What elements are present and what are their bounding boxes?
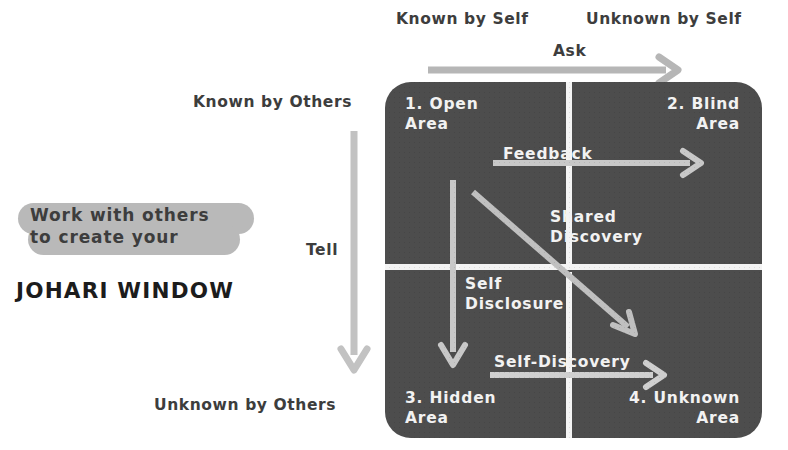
tell-arrow [341,131,367,370]
johari-window-title: JOHARI WINDOW [16,278,234,303]
divider-horizontal [385,264,762,270]
quadrant-label-unknown: 4. Unknown Area [629,388,740,428]
axis-label-unknown-by-self: Unknown by Self [586,10,742,29]
arrow-label-tell: Tell [306,241,338,260]
inner-arrows-layer [385,82,762,438]
axis-label-known-by-others: Known by Others [193,93,352,112]
johari-matrix: 1. Open Area 2. Blind Area 3. Hidden Are… [385,82,762,438]
title-line-1: Work with others [30,204,209,226]
arrow-label-feedback: Feedback [503,144,593,164]
axis-label-known-by-self: Known by Self [396,10,529,29]
arrow-label-shared-discovery: Shared Discovery [550,207,643,247]
axis-label-unknown-by-others: Unknown by Others [154,396,336,415]
quadrant-label-blind: 2. Blind Area [667,94,740,134]
arrow-label-ask: Ask [553,42,586,61]
arrow-label-self-disclosure: Self Disclosure [465,274,564,314]
quadrant-label-open: 1. Open Area [405,94,479,134]
title-lines: Work with others to create your [14,198,221,253]
self-disclosure-arrow [441,180,465,365]
highlight-wrap: Work with others to create your [14,198,221,253]
title-block: Work with others to create your [14,198,279,253]
title-line-2: to create your [30,226,209,248]
quadrant-label-hidden: 3. Hidden Area [405,388,496,428]
arrow-label-self-discovery: Self-Discovery [494,352,631,372]
